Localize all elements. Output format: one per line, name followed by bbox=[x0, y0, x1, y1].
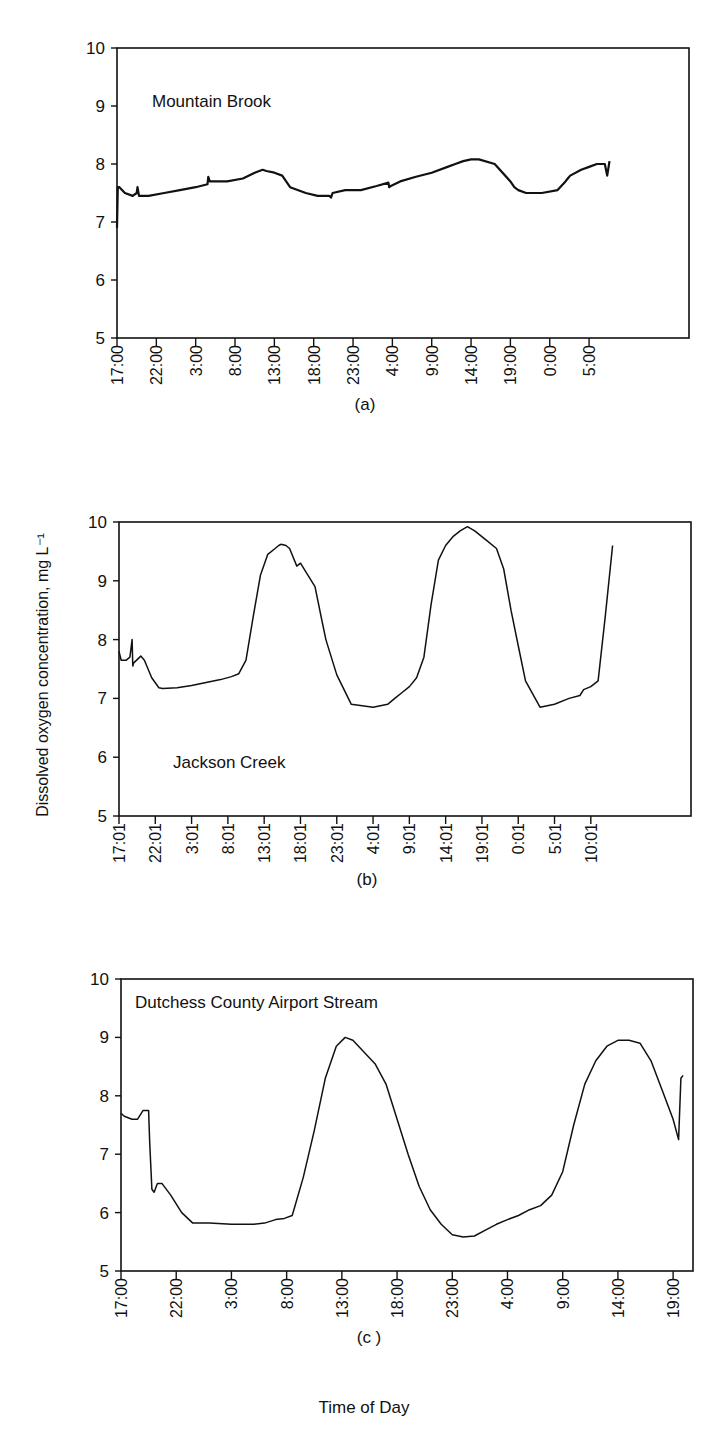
x-tick-label: 17:00 bbox=[113, 1278, 130, 1318]
x-tick-label: 18:00 bbox=[389, 1278, 406, 1318]
x-tick-label: 3:00 bbox=[223, 1278, 240, 1309]
plot-frame bbox=[121, 979, 693, 1271]
y-tick-label: 10 bbox=[90, 970, 109, 989]
x-tick-label: 23:00 bbox=[444, 1278, 461, 1318]
x-tick-label: 14:00 bbox=[610, 1278, 627, 1318]
x-tick-label: 8:00 bbox=[279, 1278, 296, 1309]
series-title: Dutchess County Airport Stream bbox=[135, 993, 378, 1012]
x-tick-label: 22:00 bbox=[168, 1278, 185, 1318]
x-tick-label: 4:00 bbox=[499, 1278, 516, 1309]
panel-label: (c ) bbox=[357, 1328, 382, 1347]
x-tick-label: 13:00 bbox=[334, 1278, 351, 1318]
data-line bbox=[121, 1037, 683, 1237]
chart-dutchess-county-airport-stream: 567891017:0022:003:008:0013:0018:0023:00… bbox=[0, 0, 728, 1447]
x-axis-title: Time of Day bbox=[0, 1398, 728, 1418]
y-tick-label: 8 bbox=[100, 1087, 109, 1106]
x-tick-label: 9:00 bbox=[555, 1278, 572, 1309]
x-tick-label: 19:00 bbox=[665, 1278, 682, 1318]
y-tick-label: 7 bbox=[100, 1145, 109, 1164]
y-tick-label: 9 bbox=[100, 1028, 109, 1047]
y-tick-label: 5 bbox=[100, 1262, 109, 1281]
y-tick-label: 6 bbox=[100, 1204, 109, 1223]
